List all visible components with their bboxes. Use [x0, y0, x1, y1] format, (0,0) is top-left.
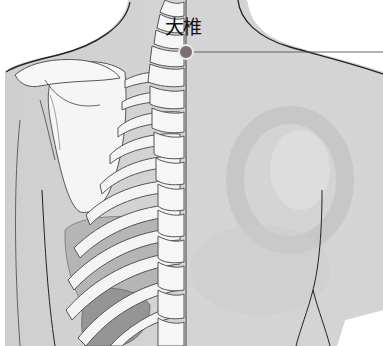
acupoint-label: 大椎 — [165, 18, 201, 37]
back-anatomy-illustration — [0, 0, 383, 346]
acupoint-figure: 大椎 — [0, 0, 383, 346]
dazhui-acupoint-marker — [179, 45, 193, 59]
